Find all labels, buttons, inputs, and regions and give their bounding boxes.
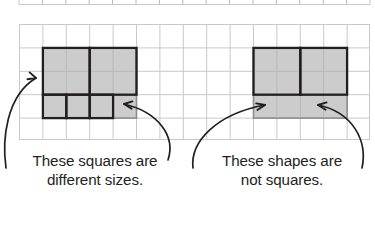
right-caption-line-1: These shapes are: [222, 152, 342, 169]
right-caption: These shapes are not squares.: [189, 152, 375, 189]
left-caption-line-2: different sizes.: [2, 171, 188, 190]
left-caption: These squares are different sizes.: [2, 152, 188, 189]
right-shape-group: [254, 48, 348, 118]
left-caption-line-1: These squares are: [33, 152, 158, 169]
left-shape-group: [43, 48, 137, 118]
right-caption-line-2: not squares.: [189, 171, 375, 190]
